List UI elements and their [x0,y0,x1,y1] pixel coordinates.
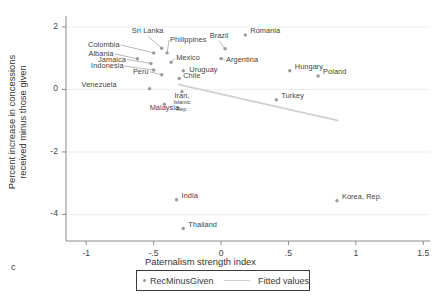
point-label: Peru [133,68,149,76]
data-point-marker [288,69,291,72]
y-axis-tick-label: 2 [0,21,58,31]
label-leader-line [127,60,151,64]
point-label: Chile [183,72,200,80]
x-axis-tick-label: -1 [66,248,106,258]
point-label: Mexico [176,54,200,62]
panel-letter: c [11,262,16,272]
legend-label-recminusgiven: RecMinusGiven [150,276,214,286]
data-point-marker [182,227,185,230]
data-point-marker [275,98,278,101]
label-leader-line [148,36,162,48]
data-point-marker [178,77,181,80]
x-axis-tick-label: 1.5 [403,248,442,258]
legend-entry-recminusgiven: RecMinusGiven [137,271,224,290]
legend: RecMinusGiven Fitted values [136,270,310,291]
scatter-plot-figure: Percent increase in concessions received… [0,0,442,304]
label-leader-line [171,58,175,62]
y-axis-tick-label: -2 [0,146,58,156]
point-label: Turkey [281,92,304,100]
y-axis-title-line2: received minus those given [17,65,28,179]
y-axis-title-line1: Percent increase in concessions [6,55,17,189]
x-axis-tick-label: .5 [268,248,308,258]
label-leader-line [121,45,154,53]
legend-marker-dot-icon [143,279,146,282]
y-axis-title: Percent increase in concessions received… [6,12,28,232]
legend-line-icon [224,280,250,281]
y-axis-tick-label: 0 [0,83,58,93]
point-label: Venezuela [82,81,117,89]
point-label: Philippines [170,36,206,44]
data-point-marker [148,87,151,90]
point-label: Korea, Rep. [342,193,382,201]
point-label: Romania [250,27,280,35]
point-label: Argentina [226,56,258,64]
label-leader-line [167,40,169,53]
data-point-marker [175,198,178,201]
data-point-marker [244,33,247,36]
point-label: Indonesia [91,62,124,70]
data-point-marker [335,199,338,202]
x-axis-tick-label: 1 [336,248,376,258]
point-label: Colombia [88,41,120,49]
point-label: Thailand [188,221,217,229]
point-label: Poland [323,68,346,76]
point-label: Brazil [210,32,229,40]
x-axis-tick-label: 0 [201,248,241,258]
point-label: India [182,192,198,200]
legend-label-fitted-values: Fitted values [258,276,309,286]
y-axis-tick-label: -4 [0,208,58,218]
x-axis-tick-label: -.5 [134,248,174,258]
point-label: Malaysia [150,104,180,112]
data-point-marker [316,74,319,77]
label-leader-line [150,72,162,75]
point-label: Hungary [295,63,323,71]
legend-entry-fitted-values: Fitted values [224,271,309,290]
label-leader-line [219,41,225,49]
point-label: Sri Lanka [132,27,164,35]
